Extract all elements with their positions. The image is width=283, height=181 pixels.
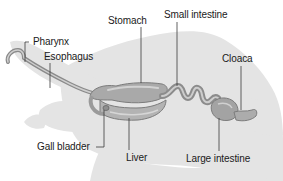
gall-bladder-shape <box>103 106 109 111</box>
label-large-intestine: Large intestine <box>186 153 250 164</box>
label-esophagus: Esophagus <box>44 51 93 62</box>
label-liver: Liver <box>126 152 147 163</box>
turtle-digestive-diagram: Pharynx Esophagus Stomach Small intestin… <box>0 0 283 181</box>
label-small-intestine: Small intestine <box>164 9 228 20</box>
label-gall-bladder: Gall bladder <box>37 141 90 152</box>
label-cloaca: Cloaca <box>222 53 253 64</box>
label-pharynx: Pharynx <box>33 36 69 47</box>
label-stomach: Stomach <box>108 15 147 26</box>
large-intestine-shape <box>211 98 238 121</box>
